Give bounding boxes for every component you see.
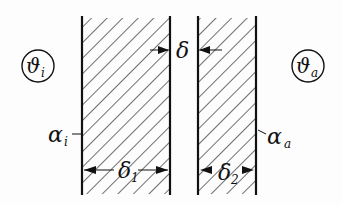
svg-text:a: a bbox=[311, 66, 318, 80]
svg-text:δ: δ bbox=[218, 160, 231, 185]
inner-coefficient-label: α i bbox=[48, 122, 81, 149]
svg-text:δ: δ bbox=[118, 158, 131, 183]
gap-label: δ bbox=[176, 38, 189, 63]
wall-diagram: δ ϑ i ϑ a α i α a δ 1 δ 2 bbox=[0, 0, 342, 204]
svg-text:2: 2 bbox=[230, 173, 239, 187]
svg-text:1: 1 bbox=[131, 171, 139, 185]
diagram-canvas: δ ϑ i ϑ a α i α a δ 1 δ 2 bbox=[0, 0, 342, 204]
svg-text:i: i bbox=[64, 135, 68, 149]
svg-text:α: α bbox=[48, 122, 63, 147]
svg-text:i: i bbox=[41, 66, 45, 80]
inner-temperature-label: ϑ i bbox=[22, 50, 54, 82]
outer-temperature-label: ϑ a bbox=[292, 50, 324, 82]
outer-coefficient-label: α a bbox=[258, 124, 291, 151]
svg-text:ϑ: ϑ bbox=[26, 54, 40, 78]
svg-text:a: a bbox=[284, 137, 291, 151]
svg-text:ϑ: ϑ bbox=[296, 54, 310, 78]
svg-text:α: α bbox=[267, 124, 282, 149]
